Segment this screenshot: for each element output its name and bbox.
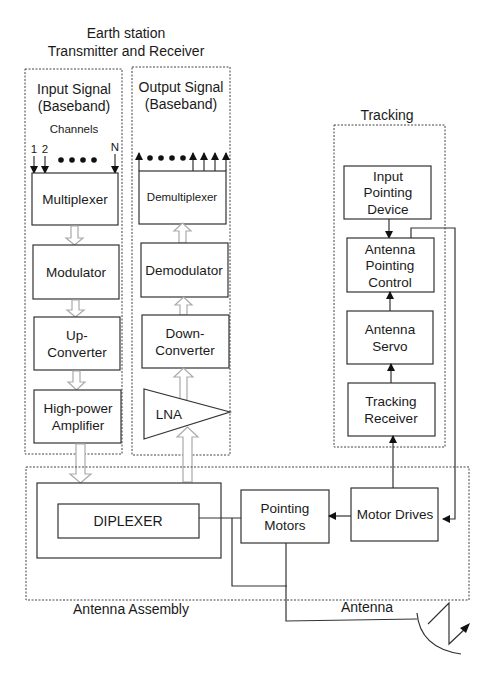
lna-label: LNA: [156, 407, 182, 422]
channels-label: Channels: [50, 123, 99, 135]
channel-1-label: 1: [31, 143, 37, 155]
down-converter-label-line1: Down-: [165, 326, 204, 341]
demultiplexer-label: Demultiplexer: [147, 191, 217, 203]
tracking-receiver-block: [348, 383, 435, 436]
hpa-label-line1: High-power: [43, 401, 113, 416]
pointing-motors-label-line1: Pointing: [261, 501, 310, 516]
input-signal-panel: Input Signal (Baseband) Channels 1 2 N M…: [25, 69, 122, 454]
down-converter-label-line2: Converter: [155, 343, 215, 358]
high-power-amplifier-block: [34, 390, 121, 443]
ipd-label-line2: Pointing: [364, 185, 413, 200]
up-converter-label-line1: Up-: [66, 328, 88, 343]
flow-arrow-lna-to-downconv: [174, 368, 193, 400]
ipd-label-line3: Device: [367, 202, 408, 217]
hpa-label-line2: Amplifier: [52, 418, 105, 433]
apc-label-line2: Pointing: [366, 258, 415, 273]
antenna-assembly: Antenna Assembly DIPLEXER Pointing Motor…: [26, 467, 469, 617]
pointing-motors-label-line2: Motors: [264, 518, 306, 533]
input-panel-heading-line1: Input Signal: [37, 81, 111, 97]
modulator-label: Modulator: [46, 265, 107, 280]
receiver-label-line1: Tracking: [365, 394, 416, 409]
antenna-dish-icon: [417, 603, 470, 654]
servo-label-line1: Antenna: [365, 322, 416, 337]
up-converter-label-line2: Converter: [47, 345, 107, 360]
tracking-heading: Tracking: [360, 107, 413, 123]
earth-station-block-diagram: Earth station Transmitter and Receiver I…: [0, 0, 494, 681]
demodulator-label: Demodulator: [145, 263, 223, 278]
flow-arrow-mux-to-mod: [66, 226, 83, 245]
tracking-panel: Tracking Input Pointing Device Antenna P…: [334, 107, 445, 447]
channel-2-label: 2: [42, 143, 48, 155]
output-ellipsis-dots: [147, 155, 186, 161]
channel-ellipsis-dots: [58, 157, 97, 163]
flow-arrow-downconv-to-demod: [175, 297, 192, 315]
diagram-title-line2: Transmitter and Receiver: [48, 43, 205, 59]
receiver-label-line2: Receiver: [364, 411, 418, 426]
input-panel-heading-line2: (Baseband): [38, 98, 110, 114]
flow-arrow-upconv-to-hpa: [68, 371, 85, 390]
output-panel-heading-line2: (Baseband): [145, 96, 217, 112]
servo-label-line2: Servo: [372, 339, 407, 354]
antenna-servo-block: [347, 311, 433, 364]
apc-label-line3: Control: [368, 275, 412, 290]
flow-arrow-demod-to-demux: [174, 223, 191, 243]
apc-label-line1: Antenna: [365, 242, 416, 257]
diplexer-label: DIPLEXER: [93, 513, 162, 529]
multiplexer-label: Multiplexer: [42, 192, 108, 207]
down-converter-block: [142, 315, 229, 368]
output-signal-panel: Output Signal (Baseband) Demultiplexer D…: [132, 67, 230, 455]
up-converter-block: [34, 317, 120, 370]
flow-arrow-mod-to-upconv: [67, 300, 84, 317]
channel-n-label: N: [111, 141, 119, 153]
output-panel-heading-line1: Output Signal: [139, 79, 224, 95]
antenna-assembly-label: Antenna Assembly: [73, 601, 189, 617]
antenna-label: Antenna: [341, 599, 393, 615]
ipd-label-line1: Input: [373, 169, 403, 184]
motor-drives-label: Motor Drives: [357, 507, 434, 522]
pointing-motors-block: [241, 490, 329, 543]
diagram-title-line1: Earth station: [87, 25, 166, 41]
flow-arrow-hpa-to-diplexer: [70, 444, 91, 483]
